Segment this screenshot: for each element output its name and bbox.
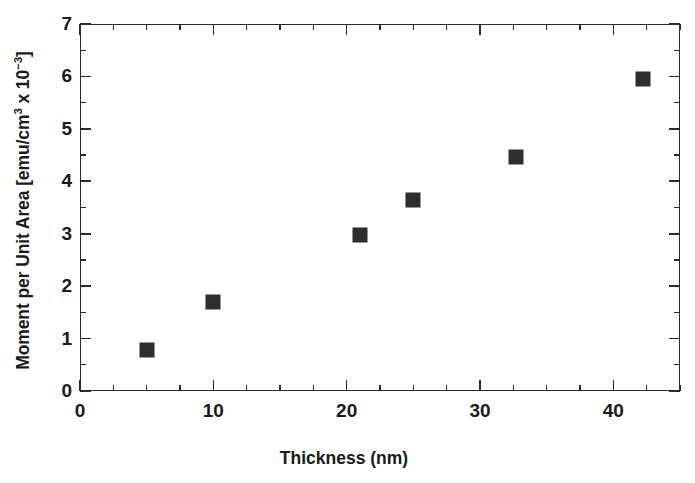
y-axis-label-prefix: Moment per Unit Area [emu/cm — [13, 114, 33, 369]
data-point — [139, 343, 154, 358]
data-point — [406, 192, 421, 207]
y-tick-label: 2 — [46, 275, 72, 297]
x-tick-label: 0 — [58, 400, 102, 422]
data-point — [206, 294, 221, 309]
data-point — [635, 72, 650, 87]
y-axis-label-text: Moment per Unit Area [emu/cm3 x 10−3] — [13, 51, 34, 370]
y-axis-label-mid: x 10 — [13, 69, 33, 107]
x-tick-label: 40 — [591, 400, 635, 422]
y-axis-label: Moment per Unit Area [emu/cm3 x 10−3] — [0, 0, 46, 420]
x-tick-label: 10 — [191, 400, 235, 422]
y-axis-label-exponent-scale: −3 — [12, 56, 24, 69]
y-tick-label: 4 — [46, 170, 72, 192]
y-tick-label: 6 — [46, 65, 72, 87]
figure: Moment per Unit Area [emu/cm3 x 10−3] 01… — [0, 0, 695, 483]
y-axis-label-exponent-cm: 3 — [12, 108, 24, 114]
plot-area — [80, 24, 680, 391]
y-tick-label: 7 — [46, 13, 72, 35]
y-tick-label: 3 — [46, 223, 72, 245]
x-tick-label: 20 — [325, 400, 369, 422]
y-axis-label-suffix: ] — [13, 51, 33, 57]
y-tick-label: 5 — [46, 118, 72, 140]
y-tick-label: 0 — [46, 380, 72, 402]
data-point — [509, 149, 524, 164]
y-tick-label: 1 — [46, 328, 72, 350]
x-axis-label: Thickness (nm) — [80, 448, 608, 469]
data-point — [353, 228, 368, 243]
x-tick-label: 30 — [458, 400, 502, 422]
